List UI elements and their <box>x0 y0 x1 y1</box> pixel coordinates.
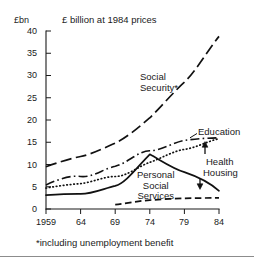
y-tick-label: 5 <box>19 182 37 192</box>
y-tick-label: 10 <box>19 160 37 170</box>
y-tick-label: 40 <box>19 26 37 36</box>
x-axis-ticks <box>46 209 219 214</box>
y-tick-label: 25 <box>19 93 37 103</box>
y-tick-label: 20 <box>19 115 37 125</box>
series-label-housing: Housing <box>203 167 238 178</box>
series-label-education: Education <box>198 126 240 137</box>
series-line-housing <box>46 154 219 195</box>
series-label-health: Health <box>206 156 233 167</box>
series-label-social-security: Social Security* <box>140 71 178 93</box>
series-label-pss-line1: Personal <box>137 170 175 181</box>
x-tick-label: 1959 <box>32 217 60 227</box>
x-tick-label: 79 <box>173 217 195 227</box>
chart-title: £ billion at 1984 prices <box>62 15 157 25</box>
y-tick-label: 0 <box>19 204 37 214</box>
chart-footnote: *including unemployment benefit <box>36 238 173 248</box>
series-line-health <box>46 139 219 188</box>
series-label-social-security-line1: Social <box>140 71 178 82</box>
y-tick-label: 30 <box>19 70 37 80</box>
y-axis-unit-label: £bn <box>14 15 29 25</box>
x-tick-label: 74 <box>139 217 161 227</box>
axis-lines <box>46 31 219 209</box>
series-label-personal-social-services: Personal Social Services <box>137 170 175 202</box>
bottom-divider <box>0 256 254 257</box>
x-tick-label: 84 <box>208 217 230 227</box>
leader-line-education <box>190 134 197 138</box>
x-tick-label: 64 <box>70 217 92 227</box>
series-label-social-security-line2: Security* <box>140 82 178 93</box>
x-tick-label: 69 <box>104 217 126 227</box>
series-label-pss-line3: Services <box>137 191 175 202</box>
chart-figure: £bn £ billion at 1984 prices 40 35 30 25… <box>0 0 254 262</box>
y-tick-label: 15 <box>19 137 37 147</box>
y-tick-label: 35 <box>19 48 37 58</box>
series-line-education <box>46 138 219 185</box>
